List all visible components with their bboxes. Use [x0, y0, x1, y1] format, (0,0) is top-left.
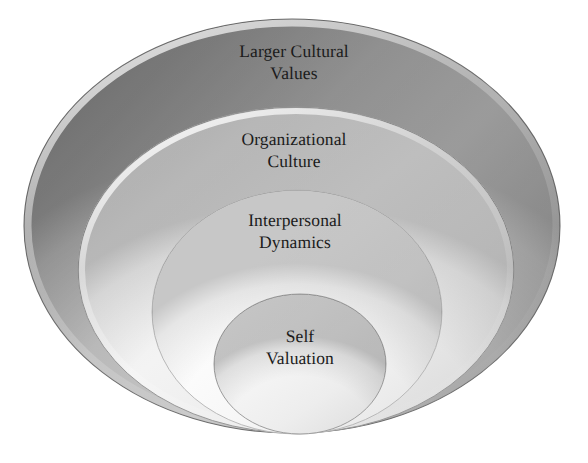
- ring-inner: [214, 294, 386, 434]
- diagram-canvas: [0, 0, 588, 463]
- nested-circles-diagram: Larger Cultural Values Organizational Cu…: [0, 0, 588, 463]
